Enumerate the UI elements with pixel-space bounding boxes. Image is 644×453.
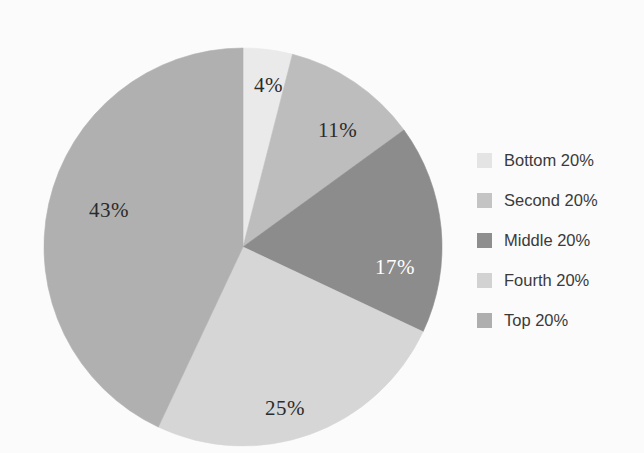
pie-svg: 4%11%17%25%43% <box>43 47 443 447</box>
legend-item-label: Fourth 20% <box>504 271 589 290</box>
legend-item-label: Bottom 20% <box>504 151 594 170</box>
pie-chart-figure: 4%11%17%25%43% Bottom 20%Second 20%Middl… <box>0 0 644 453</box>
legend-item[interactable]: Top 20% <box>477 300 637 340</box>
legend-swatch-icon <box>477 193 492 208</box>
legend-item[interactable]: Fourth 20% <box>477 260 637 300</box>
legend-swatch-icon <box>477 313 492 328</box>
pie-slice-group <box>44 48 442 446</box>
pie-chart-plot: 4%11%17%25%43% <box>43 47 443 447</box>
legend-item[interactable]: Second 20% <box>477 180 637 220</box>
pie-data-label: 11% <box>318 118 357 142</box>
legend-item-label: Top 20% <box>504 311 568 330</box>
pie-data-label: 4% <box>254 73 283 97</box>
legend-item[interactable]: Bottom 20% <box>477 140 637 180</box>
pie-data-label: 17% <box>375 255 415 279</box>
pie-data-label: 25% <box>265 396 305 420</box>
chart-legend: Bottom 20%Second 20%Middle 20%Fourth 20%… <box>477 140 637 340</box>
legend-swatch-icon <box>477 273 492 288</box>
legend-swatch-icon <box>477 233 492 248</box>
legend-swatch-icon <box>477 153 492 168</box>
legend-item-label: Middle 20% <box>504 231 590 250</box>
pie-data-label: 43% <box>89 198 129 222</box>
legend-item-label: Second 20% <box>504 191 598 210</box>
legend-item[interactable]: Middle 20% <box>477 220 637 260</box>
